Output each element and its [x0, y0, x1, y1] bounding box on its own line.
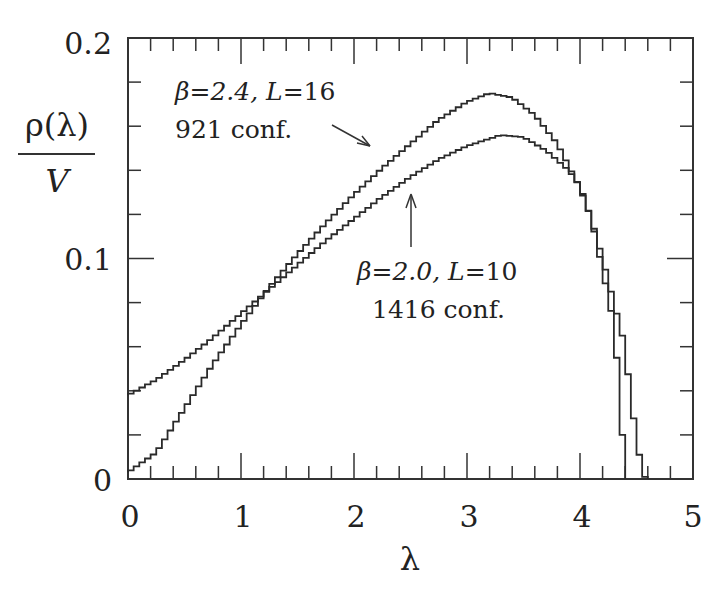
y-tick-0-1: 0.1	[64, 242, 112, 277]
x-tick-4: 4	[572, 499, 591, 534]
y-tick-0: 0	[93, 463, 112, 498]
x-tick-1: 1	[233, 499, 252, 534]
annotation-beta-2-4-line1: β=2.4, L=16	[174, 77, 335, 106]
x-tick-3: 3	[459, 499, 478, 534]
x-tick-2: 2	[346, 499, 365, 534]
y-tick-0-2: 0.2	[64, 26, 112, 61]
arrowhead-icon	[357, 136, 370, 146]
x-tick-0: 0	[120, 499, 139, 534]
series-beta-2-4-histogram	[128, 94, 648, 479]
annotation-arrow-beta-2-4	[332, 125, 370, 146]
annotation-beta-2-0-line1: β=2.0, L=10	[356, 257, 517, 286]
spectral-density-chart: 0.2 0.1 0 0 1 2 3 4 5 λ ρ(λ) V β=2.4, L=…	[0, 0, 716, 590]
annotation-beta-2-0-line2: 1416 conf.	[372, 295, 505, 324]
y-axis-title-denominator: V	[45, 162, 71, 200]
x-axis-title: λ	[400, 540, 420, 578]
annotation-beta-2-4-line2: 921 conf.	[175, 115, 292, 144]
x-tick-5: 5	[683, 499, 702, 534]
y-axis-title-numerator: ρ(λ)	[25, 106, 89, 144]
